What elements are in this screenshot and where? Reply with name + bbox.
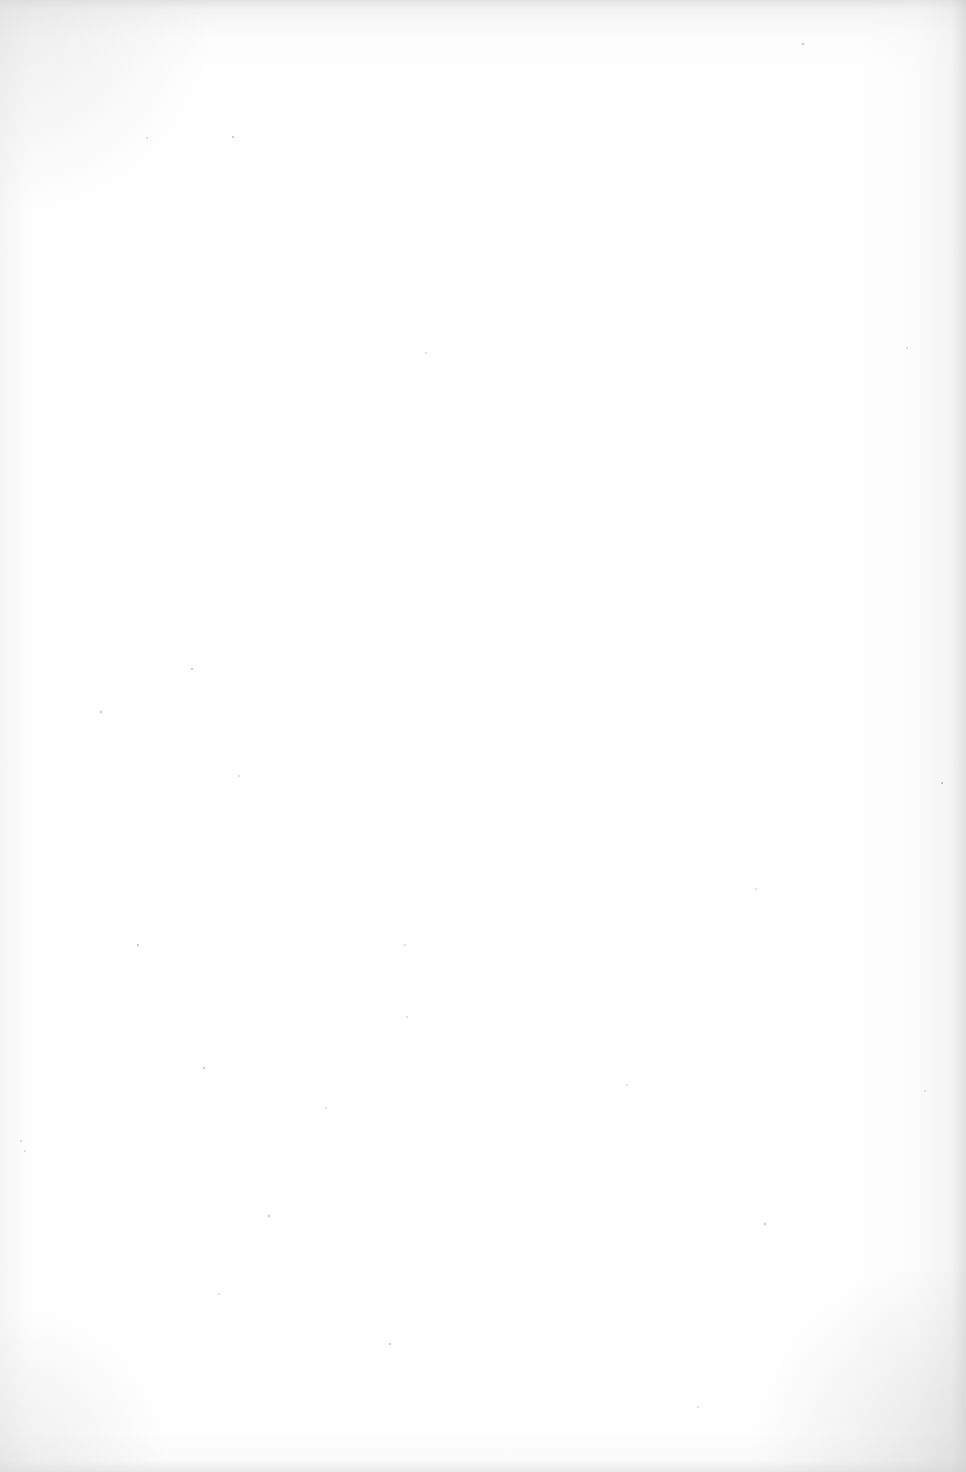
paper-speck: [941, 782, 943, 784]
blank-page: [0, 0, 966, 1472]
paper-speck: [404, 944, 406, 946]
paper-speck: [191, 668, 193, 670]
paper-speck: [268, 1215, 270, 1217]
paper-speck: [20, 1140, 22, 1142]
paper-speck: [389, 1343, 391, 1345]
paper-speck: [626, 1084, 628, 1086]
scan-corner-shadow: [726, 1272, 966, 1472]
paper-speck: [802, 43, 804, 45]
paper-speck: [146, 137, 148, 139]
paper-speck: [764, 1223, 766, 1225]
paper-speck: [755, 888, 757, 890]
paper-speck: [906, 347, 908, 349]
paper-speck: [218, 1293, 220, 1295]
scan-corner-shadow: [0, 0, 220, 220]
paper-speck: [924, 1090, 926, 1092]
paper-speck: [232, 136, 234, 138]
paper-speck: [406, 1016, 408, 1018]
paper-speck: [137, 944, 139, 946]
paper-speck: [203, 1067, 205, 1069]
paper-speck: [325, 1107, 327, 1109]
scan-corner-shadow: [0, 1312, 180, 1472]
paper-speck: [24, 1150, 26, 1152]
paper-speck: [100, 711, 102, 713]
paper-speck: [238, 775, 240, 777]
paper-speck: [697, 1406, 699, 1408]
paper-speck: [425, 352, 427, 354]
scan-edge-shadow-left: [0, 0, 30, 1472]
scan-edge-shadow-right: [856, 0, 966, 1472]
